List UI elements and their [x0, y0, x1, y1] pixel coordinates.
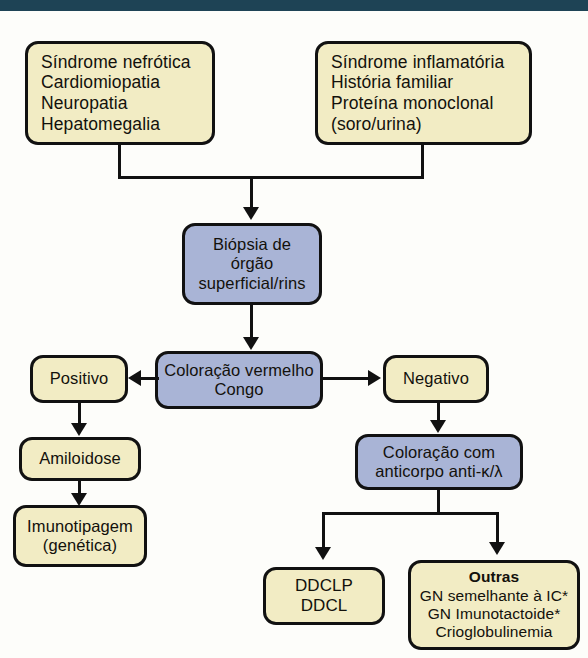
biopsy-line-2: órgão: [231, 254, 274, 273]
flowchart-body: Síndrome nefrótica Cardiomiopatia Neurop…: [0, 11, 588, 658]
clinical-features-left: Síndrome nefrótica Cardiomiopatia Neurop…: [25, 41, 215, 145]
clinical-left-line-2: Cardiomiopatia: [39, 72, 160, 93]
immunotyping-line-2: (genética): [43, 536, 117, 555]
immunotyping-line-1: Imunotipagem: [27, 517, 133, 536]
clinical-right-line-1: Síndrome inflamatória: [329, 52, 504, 73]
clinical-left-line-3: Neuropatia: [39, 93, 128, 114]
antibody-line-2: anticorpo anti-κ/λ: [375, 462, 502, 481]
biopsy-line-3: superficial/rins: [198, 274, 305, 293]
antibody-stain-step: Coloração com anticorpo anti-κ/λ: [355, 434, 523, 490]
edge-split-to-ddclp-stem: [322, 512, 325, 550]
amyloidosis-label: Amiloidose: [39, 449, 121, 468]
result-positive: Positivo: [30, 355, 128, 403]
biopsy-step: Biópsia de órgão superficial/rins: [182, 223, 322, 305]
others-line-2: GN Imunotactoide*: [428, 605, 561, 623]
result-negative: Negativo: [383, 355, 489, 403]
clinical-features-right: Síndrome inflamatória História familiar …: [315, 41, 532, 145]
edge-antibody-split-bar: [322, 512, 499, 515]
others-line-1: GN semelhante à IC*: [420, 587, 568, 605]
edge-merge-to-biopsy-arrow: [243, 207, 259, 220]
edge-congo-to-negative-line: [320, 377, 368, 380]
clinical-right-line-2: História familiar: [329, 72, 453, 93]
edge-split-to-ddclp-arrow: [315, 547, 331, 560]
edge-clinical-merge-bar: [118, 176, 424, 179]
immunotyping-step: Imunotipagem (genética): [13, 505, 147, 567]
header-bar: [0, 0, 588, 11]
edge-clinical-left-stem: [118, 145, 121, 179]
positive-label: Positivo: [50, 369, 109, 388]
edge-positive-to-amyloidosis-stem: [78, 403, 81, 425]
congo-line-1: Coloração vermelho: [164, 361, 313, 380]
edge-negative-to-antibody-arrow: [430, 420, 446, 433]
diagnosis-ddclp: DDCLP DDCL: [263, 567, 385, 625]
diagnosis-amyloidosis: Amiloidose: [19, 437, 141, 481]
edge-clinical-right-stem: [421, 145, 424, 179]
edge-congo-to-negative-arrow: [368, 370, 381, 386]
others-line-3: Crioglobulinemia: [435, 623, 552, 641]
clinical-right-line-3: Proteína monoclonal: [329, 93, 493, 114]
edge-split-to-others-arrow: [489, 542, 505, 555]
edge-merge-to-biopsy-stem: [250, 176, 253, 209]
clinical-right-line-4: (soro/urina): [329, 114, 422, 135]
edge-biopsy-to-congo-stem: [250, 305, 253, 339]
edge-congo-to-positive-arrow: [128, 370, 141, 386]
negative-label: Negativo: [403, 369, 469, 388]
biopsy-line-1: Biópsia de: [213, 235, 291, 254]
congo-red-stain: Coloração vermelho Congo: [155, 351, 323, 409]
edge-split-to-others-stem: [496, 512, 499, 546]
ddclp-line-2: DDCL: [301, 596, 348, 616]
edge-positive-to-amyloidosis-arrow: [71, 423, 87, 436]
others-heading: Outras: [469, 568, 520, 586]
flowchart-canvas: Síndrome nefrótica Cardiomiopatia Neurop…: [0, 0, 588, 658]
antibody-line-1: Coloração com: [383, 443, 495, 462]
edge-biopsy-to-congo-arrow: [243, 337, 259, 350]
edge-congo-to-positive-line: [141, 377, 159, 380]
ddclp-line-1: DDCLP: [295, 576, 353, 596]
clinical-left-line-1: Síndrome nefrótica: [39, 52, 191, 73]
clinical-left-line-4: Hepatomegalia: [39, 114, 160, 135]
congo-line-2: Congo: [214, 380, 263, 399]
diagnosis-others: Outras GN semelhante à IC* GN Imunotacto…: [408, 560, 580, 650]
